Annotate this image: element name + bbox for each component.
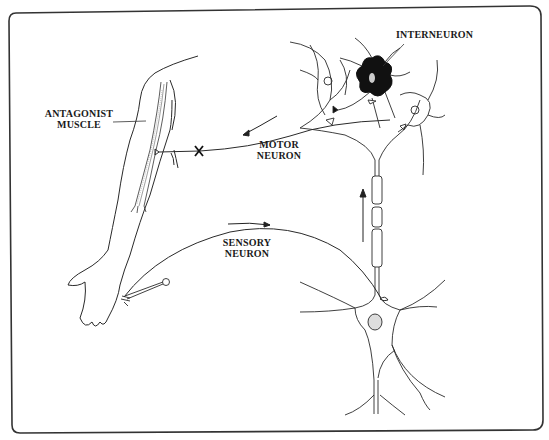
motor-label-line2: NEURON bbox=[244, 150, 314, 161]
motor-neuron-label: MOTOR NEURON bbox=[244, 139, 314, 161]
sensory-label-line2: NEURON bbox=[212, 248, 282, 259]
sensory-cell-body bbox=[300, 280, 445, 415]
upward-signal-arrow bbox=[360, 189, 366, 242]
diagram-border bbox=[9, 14, 265, 24]
antagonist-muscle-label: ANTAGONIST MUSCLE bbox=[36, 108, 122, 130]
antagonist-muscle bbox=[131, 82, 167, 213]
antagonist-label-line1: ANTAGONIST bbox=[36, 108, 122, 119]
diagram-border bbox=[9, 6, 543, 433]
antagonist-label-line2: MUSCLE bbox=[36, 119, 122, 130]
motor-neuron-cell bbox=[300, 45, 347, 115]
sensory-direction-arrow bbox=[228, 222, 270, 227]
interneuron-pointer bbox=[383, 44, 404, 66]
myelinated-axon bbox=[372, 160, 382, 295]
interneuron-cell bbox=[333, 38, 410, 128]
right-neuron-cell bbox=[398, 60, 445, 175]
motor-direction-arrow bbox=[243, 116, 277, 136]
reflex-arc-diagram bbox=[0, 0, 549, 440]
interneuron-label: INTERNEURON bbox=[396, 29, 486, 40]
sensory-label-line1: SENSORY bbox=[212, 237, 282, 248]
motor-label-line1: MOTOR bbox=[244, 139, 314, 150]
sensory-neuron-label: SENSORY NEURON bbox=[212, 237, 282, 259]
arm-illustration bbox=[68, 56, 198, 326]
